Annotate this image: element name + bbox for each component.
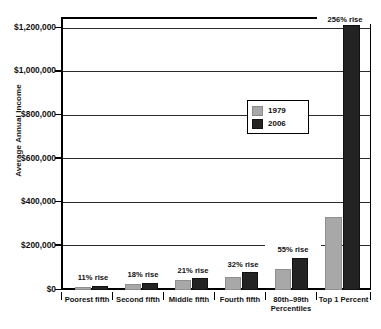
legend-swatch-1979-icon xyxy=(252,106,263,116)
y-tick-label-400000: $400,000 xyxy=(0,196,56,206)
bar-group-middle-fifth: 21% rise xyxy=(167,17,217,290)
legend: 1979 2006 xyxy=(247,100,309,134)
legend-label-2006: 2006 xyxy=(268,119,286,128)
category-label-top-1-percent: Top 1 Percent xyxy=(316,295,371,304)
category-label-middle-fifth: Middle fifth xyxy=(163,295,215,304)
bar-1979-middle-fifth[interactable] xyxy=(175,280,191,290)
bars-layer: 11% rise 18% rise 21% rise 32% rise 55% … xyxy=(61,17,371,290)
bar-1979-80th-99th-percentiles[interactable] xyxy=(275,269,291,290)
bar-1979-poorest-fifth[interactable] xyxy=(75,287,91,290)
bar-group-fourth-fifth: 32% rise xyxy=(217,17,267,290)
legend-entry-1979[interactable]: 1979 xyxy=(252,104,304,117)
bar-2006-top-1-percent[interactable] xyxy=(343,25,360,290)
bar-2006-80th-99th-percentiles[interactable] xyxy=(292,258,308,290)
y-tick-label-200000: $200,000 xyxy=(0,240,56,250)
income-bar-chart: Average Annual Income $1,200,000 $1,000,… xyxy=(0,0,381,329)
category-label-80th-99th-percentiles: 80th–99th Percentiles xyxy=(264,295,318,313)
bar-1979-top-1-percent[interactable] xyxy=(325,217,342,290)
legend-label-1979: 1979 xyxy=(268,106,286,115)
y-tick-label-1000000: $1,000,000 xyxy=(0,65,56,75)
y-tick-label-1200000: $1,200,000 xyxy=(0,22,56,32)
legend-entry-2006[interactable]: 2006 xyxy=(252,117,304,130)
y-tick-label-600000: $600,000 xyxy=(0,153,56,163)
y-tick-label-800000: $800,000 xyxy=(0,109,56,119)
bar-2006-second-fifth[interactable] xyxy=(142,283,158,291)
bar-1979-fourth-fifth[interactable] xyxy=(225,277,241,291)
bar-group-80th-99th-percentiles: 55% rise xyxy=(267,17,317,290)
legend-swatch-2006-icon xyxy=(252,119,263,129)
bar-2006-poorest-fifth[interactable] xyxy=(92,286,108,290)
rise-label-top-1-percent: 256% rise xyxy=(317,15,373,24)
rise-label-middle-fifth: 21% rise xyxy=(165,266,221,275)
bar-2006-fourth-fifth[interactable] xyxy=(242,272,258,290)
bar-2006-middle-fifth[interactable] xyxy=(192,278,208,290)
rise-label-fourth-fifth: 32% rise xyxy=(215,260,271,269)
y-axis-title: Average Annual Income xyxy=(14,61,23,201)
category-label-second-fifth: Second fifth xyxy=(112,295,164,304)
bar-group-top-1-percent: 256% rise xyxy=(317,17,367,290)
bar-group-poorest-fifth: 11% rise xyxy=(67,17,117,290)
category-label-poorest-fifth: Poorest fifth xyxy=(61,295,113,304)
rise-label-second-fifth: 18% rise xyxy=(115,270,171,279)
rise-label-poorest-fifth: 11% rise xyxy=(65,273,121,282)
category-label-fourth-fifth: Fourth fifth xyxy=(214,295,266,304)
bar-group-second-fifth: 18% rise xyxy=(117,17,167,290)
rise-label-80th-99th-percentiles: 55% rise xyxy=(265,245,321,254)
bar-1979-second-fifth[interactable] xyxy=(125,284,141,290)
y-tick-label-0: $0 xyxy=(0,284,56,294)
